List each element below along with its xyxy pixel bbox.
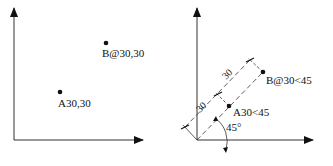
- right-point-b-label: B@30<45: [266, 74, 312, 86]
- dimension-label-2: 30: [220, 67, 235, 82]
- right-point-a-label: A30<45: [233, 106, 270, 118]
- dim-tick-3: [246, 58, 254, 62]
- right-point-b: [261, 70, 266, 75]
- dim-tick-1: [181, 125, 189, 129]
- angle-arc-arrow-top-icon: [213, 116, 218, 121]
- left-cartesian-diagram: A30,30 B@30,30: [14, 8, 145, 140]
- right-point-a: [227, 104, 232, 109]
- left-point-a: [58, 90, 63, 95]
- right-polar-diagram: 30 30 A30<45 B@30<45 45°: [181, 8, 313, 153]
- coordinate-diagram: A30,30 B@30,30 30 30 A30<45 B@30<45 45°: [0, 0, 333, 166]
- angle-label: 45°: [226, 121, 241, 133]
- left-point-b: [104, 41, 109, 46]
- angle-arc-arrow-icon: [223, 147, 228, 153]
- left-point-b-label: B@30,30: [102, 47, 145, 59]
- left-point-a-label: A30,30: [58, 97, 91, 109]
- dimension-label-1: 30: [194, 100, 209, 115]
